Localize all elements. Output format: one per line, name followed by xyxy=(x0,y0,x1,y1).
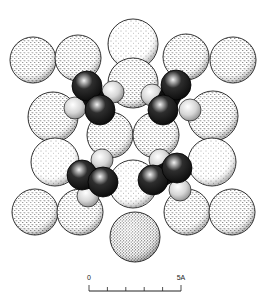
dark-atom xyxy=(85,95,115,125)
light-atom xyxy=(179,99,201,121)
large-atom-sphere xyxy=(12,189,58,235)
molecular-packing-figure: 0 5A xyxy=(0,0,266,298)
dark-atom xyxy=(162,153,192,183)
large-atom-sphere xyxy=(110,212,160,262)
large-atom-sphere xyxy=(10,37,56,83)
large-atom-sphere xyxy=(188,138,236,186)
scale-bar-start-label: 0 xyxy=(87,274,91,281)
scale-bar-end-label: 5A xyxy=(177,274,186,281)
dark-atom xyxy=(88,167,118,197)
large-atom-sphere xyxy=(209,189,255,235)
large-atom-sphere xyxy=(210,37,256,83)
dark-atom xyxy=(148,95,178,125)
